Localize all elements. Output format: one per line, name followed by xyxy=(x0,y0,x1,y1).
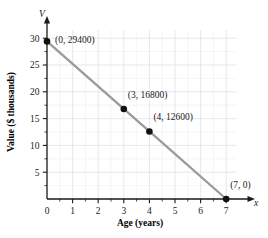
data-point-marker xyxy=(223,196,230,203)
x-axis-variable-label: x xyxy=(253,198,259,208)
x-tick-label: 4 xyxy=(147,206,152,216)
grid-minor-lines xyxy=(47,30,236,199)
x-tick-label: 1 xyxy=(70,206,75,216)
x-tick-label: 2 xyxy=(96,206,101,216)
depreciation-line-chart: 01234567 51015202530 (0, 29400)(3, 16800… xyxy=(0,0,268,238)
y-axis-tick-labels: 51015202530 xyxy=(30,34,40,178)
y-tick-label: 15 xyxy=(30,114,40,124)
data-point-labels: (0, 29400)(3, 16800)(4, 12600)(7, 0) xyxy=(55,35,251,191)
data-point-label: (0, 29400) xyxy=(55,35,95,46)
grid-major-lines xyxy=(47,30,236,199)
data-point-label: (3, 16800) xyxy=(128,90,168,101)
x-tick-label: 6 xyxy=(198,206,203,216)
x-tick-label: 0 xyxy=(45,206,50,216)
chart-canvas: 01234567 51015202530 (0, 29400)(3, 16800… xyxy=(0,0,268,238)
y-tick-label: 10 xyxy=(30,141,40,151)
y-tick-label: 5 xyxy=(35,168,40,178)
x-tick-label: 5 xyxy=(173,206,178,216)
y-axis-variable-label: V xyxy=(39,9,46,19)
y-axis-title: Value ($ thousands) xyxy=(6,72,17,152)
y-tick-label: 20 xyxy=(30,87,40,97)
y-tick-label: 25 xyxy=(30,60,40,70)
y-tick-label: 30 xyxy=(30,34,40,44)
x-tick-label: 7 xyxy=(224,206,229,216)
data-point-label: (7, 0) xyxy=(230,180,251,191)
x-tick-label: 3 xyxy=(121,206,126,216)
x-axis-tick-labels: 01234567 xyxy=(45,206,229,216)
x-axis-title: Age (years) xyxy=(117,218,163,229)
data-point-marker xyxy=(121,106,128,113)
data-point-label: (4, 12600) xyxy=(153,112,193,123)
data-point-marker xyxy=(44,38,51,45)
data-point-marker xyxy=(146,128,153,135)
